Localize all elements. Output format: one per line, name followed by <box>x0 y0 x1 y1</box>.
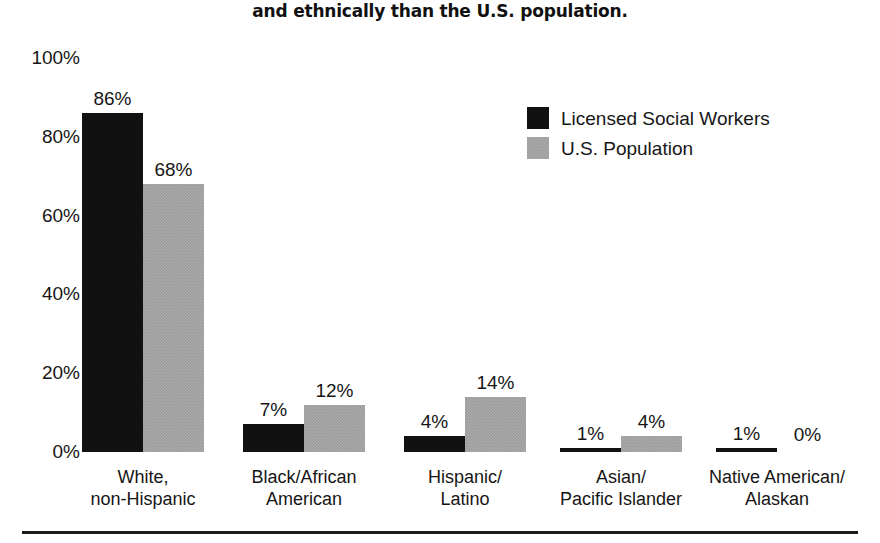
x-axis-category-label: Native American/Alaskan <box>647 466 880 510</box>
bar <box>560 448 621 452</box>
legend-item-licensed-social-workers: Licensed Social Workers <box>527 103 770 133</box>
bar <box>304 405 365 452</box>
bar-value-label: 7% <box>243 400 304 419</box>
x-axis-category-label-line: Native American/ <box>647 466 880 488</box>
y-axis-tick-label: 80% <box>8 127 80 146</box>
bar-value-label: 4% <box>404 412 465 431</box>
chart-legend: Licensed Social Workers U.S. Population <box>527 103 770 163</box>
bar-value-label: 14% <box>465 373 526 392</box>
y-axis-tick-label: 20% <box>8 363 80 382</box>
bar-value-label: 86% <box>82 89 143 108</box>
bar <box>82 113 143 452</box>
bar <box>621 436 682 452</box>
bar <box>716 448 777 452</box>
legend-label-us-population: U.S. Population <box>561 139 693 158</box>
bar-chart-plot-area: 0%20%40%60%80%100%86%7%4%1%1%68%12%14%4%… <box>0 0 880 543</box>
legend-swatch-icon-us-population <box>527 137 549 159</box>
bar-value-label: 4% <box>621 412 682 431</box>
y-axis-tick-label: 0% <box>8 442 80 461</box>
x-axis-category-label-line: Alaskan <box>647 488 880 510</box>
bar <box>243 424 304 452</box>
y-axis-tick-label: 40% <box>8 284 80 303</box>
bottom-divider <box>22 531 858 534</box>
bar-value-label: 12% <box>304 381 365 400</box>
bar <box>404 436 465 452</box>
bar-value-label: 68% <box>143 160 204 179</box>
legend-item-us-population: U.S. Population <box>527 133 770 163</box>
bar-value-label: 1% <box>716 424 777 443</box>
legend-swatch-icon-licensed-social-workers <box>527 107 549 129</box>
y-axis-tick-label: 60% <box>8 206 80 225</box>
y-axis-tick-label: 100% <box>8 48 80 67</box>
legend-label-licensed-social-workers: Licensed Social Workers <box>561 109 770 128</box>
bar <box>465 397 526 452</box>
bar-value-label: 1% <box>560 424 621 443</box>
bar-value-label: 0% <box>777 425 838 444</box>
bar <box>143 184 204 452</box>
